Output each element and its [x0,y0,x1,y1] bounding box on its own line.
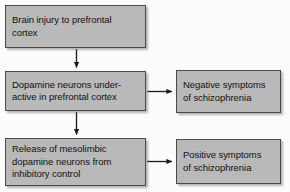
node-text-line: Brain injury to prefrontal [12,14,139,26]
node-positive-symptoms: Positive symptoms of schizophrenia [176,139,281,184]
node-mesolimbic-release-text: Release of mesolimbic dopamine neurons f… [12,143,139,180]
node-text-line: Dopamine neurons under- [12,79,139,91]
node-text-line: of schizophrenia [183,92,274,104]
flowchart-canvas: Brain injury to prefrontal cortex Dopami… [0,0,290,192]
node-brain-injury: Brain injury to prefrontal cortex [5,5,146,48]
node-dopamine-underactive-text: Dopamine neurons under- active in prefro… [12,79,139,104]
node-text-line: cortex [12,27,139,39]
node-text-line: dopamine neurons from [12,156,139,168]
node-brain-injury-text: Brain injury to prefrontal cortex [12,14,139,39]
node-dopamine-underactive: Dopamine neurons under- active in prefro… [5,71,146,111]
node-text-line: Positive symptoms [183,149,274,161]
node-negative-symptoms-text: Negative symptoms of schizophrenia [183,79,274,104]
node-positive-symptoms-text: Positive symptoms of schizophrenia [183,149,274,174]
node-text-line: inhibitory control [12,168,139,180]
node-text-line: of schizophrenia [183,162,274,174]
node-text-line: Negative symptoms [183,79,274,91]
node-negative-symptoms: Negative symptoms of schizophrenia [176,70,281,113]
node-text-line: active in prefrontal cortex [12,91,139,103]
node-text-line: Release of mesolimbic [12,143,139,155]
node-mesolimbic-release: Release of mesolimbic dopamine neurons f… [5,138,146,186]
